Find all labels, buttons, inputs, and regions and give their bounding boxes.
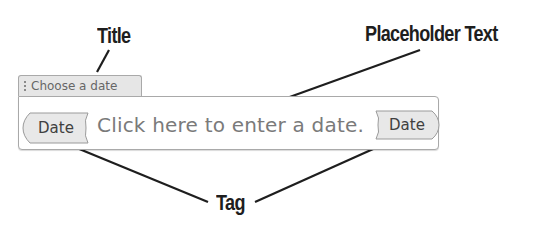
title-leader-line	[97, 50, 109, 72]
content-control-title-tab[interactable]: Choose a date	[18, 75, 142, 96]
tag-leader-line-right	[255, 141, 391, 202]
end-tag[interactable]: Date	[374, 110, 440, 140]
placeholder-text[interactable]: Click here to enter a date.	[97, 113, 364, 137]
end-tag-label: Date	[389, 116, 425, 134]
start-tag-label: Date	[38, 119, 74, 137]
tag-callout-label: Tag	[216, 192, 245, 214]
tag-leader-line-left	[72, 146, 208, 202]
grip-handle-icon[interactable]	[22, 81, 28, 91]
content-control-title: Choose a date	[31, 79, 117, 93]
title-callout-label: Title	[97, 25, 130, 47]
start-tag[interactable]: Date	[22, 112, 90, 144]
placeholder-callout-label: Placeholder Text	[365, 23, 498, 45]
